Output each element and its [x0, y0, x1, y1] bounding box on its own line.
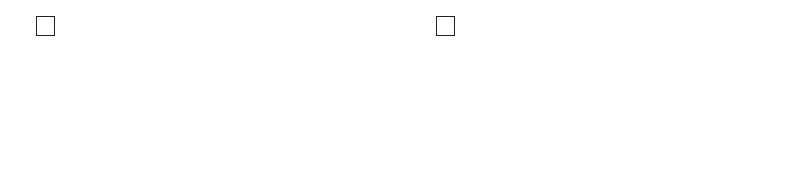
music-staff — [0, 0, 789, 182]
